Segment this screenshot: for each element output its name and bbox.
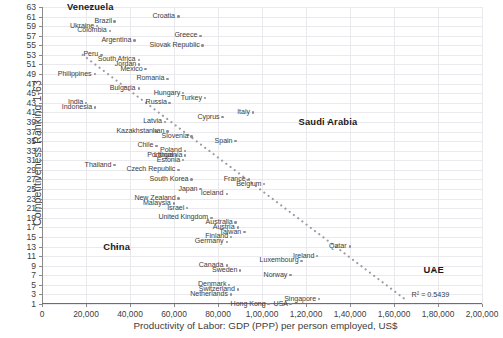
y-axis-tick-label: 49 [0, 70, 36, 79]
data-point [138, 87, 140, 89]
data-point-label: Singapore [284, 296, 316, 303]
x-axis-tick-mark [306, 304, 307, 307]
data-point-label: United Kingdom [158, 214, 208, 221]
data-point [289, 303, 291, 305]
y-axis-tick-label: 15 [0, 233, 36, 242]
data-point-label: Greece [174, 32, 197, 39]
y-axis-tick-label: 11 [0, 252, 36, 261]
y-axis-tick-label: 61 [0, 13, 36, 22]
x-axis-tick-mark [394, 304, 395, 307]
data-point [239, 269, 241, 271]
y-axis-tick-label: 51 [0, 60, 36, 69]
y-axis-tick-label: 5 [0, 281, 36, 290]
data-point-label: Luxembourg [260, 257, 299, 264]
x-axis-tick-mark [174, 304, 175, 307]
y-axis-tick-label: 29 [0, 166, 36, 175]
data-point-label: Israel [167, 205, 184, 212]
data-point [300, 260, 302, 262]
y-axis-tick-label: 25 [0, 185, 36, 194]
x-axis-tick-mark [350, 304, 351, 307]
data-point-label: Turkey [181, 95, 202, 102]
x-axis-tick-mark [482, 304, 483, 307]
data-point-label: Spain [215, 138, 233, 145]
data-point-label: Qatar [329, 243, 347, 250]
y-axis-tick-label: 9 [0, 262, 36, 271]
data-point-label: Slovak Republic [150, 42, 200, 49]
data-point-label: Russia [146, 99, 167, 106]
y-axis-tick-label: 33 [0, 147, 36, 156]
data-point-label: Venezuela [67, 2, 114, 11]
data-point-label: Saudi Arabia [299, 117, 358, 126]
x-axis-tick-mark [218, 304, 219, 307]
y-axis-tick-label: 7 [0, 271, 36, 280]
y-axis-tick-label: 41 [0, 108, 36, 117]
data-point [226, 241, 228, 243]
data-point-label: Colombia [77, 27, 107, 34]
r-squared-annotation: R² = 0.5439 [412, 290, 450, 299]
data-point-label: Kazakhstan [116, 128, 153, 135]
x-axis-tick-mark [438, 304, 439, 307]
data-point [133, 39, 135, 41]
data-point-label: Romania [136, 75, 164, 82]
data-point-label: USA [274, 301, 288, 308]
data-point-label: Japan [178, 186, 197, 193]
data-point-label: Peru [83, 51, 98, 58]
data-point [177, 15, 179, 17]
data-point-label: Italy [237, 109, 250, 116]
data-point [184, 154, 186, 156]
y-axis-tick-label: 53 [0, 51, 36, 60]
data-point-label: South Korea [150, 176, 189, 183]
y-axis-tick-label: 55 [0, 41, 36, 50]
data-point [199, 35, 201, 37]
y-axis-tick-label: 13 [0, 243, 36, 252]
data-point-label: UAE [424, 265, 444, 274]
gridline-vertical [482, 7, 483, 304]
data-point [190, 135, 192, 137]
data-point-label: Cyprus [197, 114, 219, 121]
data-point-label: Chile [137, 142, 153, 149]
y-axis-tick-label: 1 [0, 300, 36, 309]
data-point-label: Estonia [157, 157, 180, 164]
y-axis-tick-label: 31 [0, 156, 36, 165]
y-axis-tick-label: 45 [0, 89, 36, 98]
data-point [201, 44, 203, 46]
y-axis-tick-label: 37 [0, 128, 36, 137]
plot-area: 1357911131517192123252729313335373941434… [42, 7, 482, 304]
data-point-label: Thailand [85, 162, 112, 169]
data-point [166, 78, 168, 80]
data-point-label: Brazil [95, 18, 112, 25]
x-axis-tick-mark [86, 304, 87, 307]
data-point-label: Hong Kong [231, 301, 266, 308]
data-point [155, 145, 157, 147]
data-point-label: Netherlands [190, 291, 228, 298]
y-axis-tick-label: 3 [0, 290, 36, 299]
y-axis-tick-label: 27 [0, 175, 36, 184]
y-axis-tick-label: 21 [0, 204, 36, 213]
data-point [237, 288, 239, 290]
x-axis-tick-label: 2,00,000 [447, 309, 503, 319]
data-point-label: Germany [195, 238, 224, 245]
data-point-label: Slovenia [162, 133, 189, 140]
data-point-label: Indonesia [62, 104, 92, 111]
y-axis-tick-label: 17 [0, 223, 36, 232]
data-point-label: Bulgaria [110, 85, 136, 92]
x-axis-title: Productivity of Labor: GDP (PPP) per per… [42, 320, 489, 331]
data-point-label: Czech Republic [126, 166, 175, 173]
data-point [168, 102, 170, 104]
y-axis-tick-label: 59 [0, 22, 36, 31]
data-point-label: Belgium [236, 181, 261, 188]
y-axis-tick-label: 19 [0, 214, 36, 223]
data-point-label: Mexico [120, 66, 142, 73]
data-point-label: Norway [264, 272, 288, 279]
data-point [177, 169, 179, 171]
x-axis-tick-mark [42, 304, 43, 307]
x-axis-tick-mark [130, 304, 131, 307]
y-axis-tick-label: 63 [0, 3, 36, 12]
data-point [94, 106, 96, 108]
data-point [177, 197, 179, 199]
data-point-label: Sweden [212, 267, 237, 274]
data-point [267, 303, 269, 305]
data-point-label: China [103, 242, 130, 251]
y-axis-tick-label: 35 [0, 137, 36, 146]
